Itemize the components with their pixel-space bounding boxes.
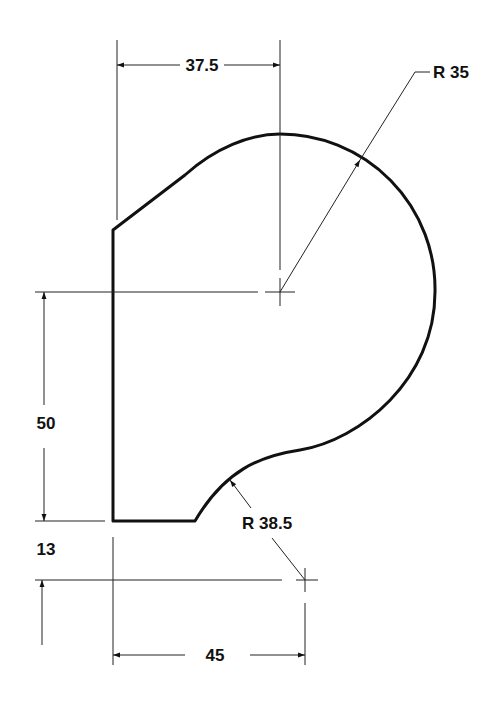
dim-label-top-width: 37.5 [185, 56, 218, 75]
leader-r38-5 [230, 480, 251, 508]
leader-r35-ext [360, 72, 415, 160]
dim-label-large-radius: R 35 [433, 63, 469, 82]
part-outline [113, 134, 435, 521]
dim-label-small-radius: R 38.5 [242, 514, 292, 533]
leader-r38-5-lower [272, 538, 305, 580]
technical-drawing: 37.5 R 35 50 13 R 38.5 45 [0, 0, 502, 712]
dim-label-offset: 13 [37, 540, 56, 559]
leader-r35 [280, 160, 360, 292]
dim-label-height: 50 [37, 414, 56, 433]
dim-label-bottom-width: 45 [206, 646, 225, 665]
